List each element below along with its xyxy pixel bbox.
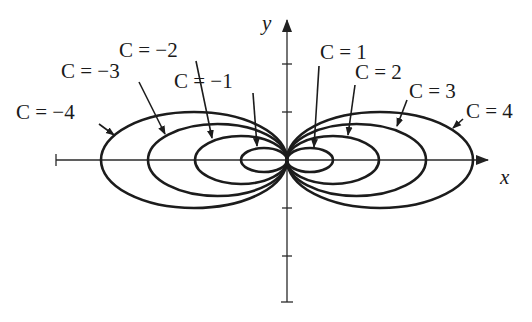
leader-c-neg3 bbox=[139, 82, 165, 134]
x-axis-label: x bbox=[499, 165, 510, 189]
leader-c-1 bbox=[314, 66, 319, 147]
leader-c-2 bbox=[348, 85, 355, 135]
label-c-neg3: C = −3 bbox=[61, 59, 120, 83]
leader-c-neg4 bbox=[99, 124, 114, 135]
label-c-3: C = 3 bbox=[409, 79, 456, 103]
label-c-neg2: C = −2 bbox=[119, 38, 178, 62]
leader-c-4 bbox=[453, 119, 463, 128]
label-c-4: C = 4 bbox=[466, 99, 513, 123]
level-curves-plot: x y C = −4 C = −3 C = −2 C = −1 C = 1 C … bbox=[0, 0, 532, 322]
label-c-2: C = 2 bbox=[355, 60, 402, 84]
label-c-neg4: C = −4 bbox=[16, 100, 75, 124]
y-axis-label: y bbox=[260, 11, 272, 35]
label-c-neg1: C = −1 bbox=[174, 69, 233, 93]
annotations: C = −4 C = −3 C = −2 C = −1 C = 1 C = 2 … bbox=[16, 38, 513, 147]
